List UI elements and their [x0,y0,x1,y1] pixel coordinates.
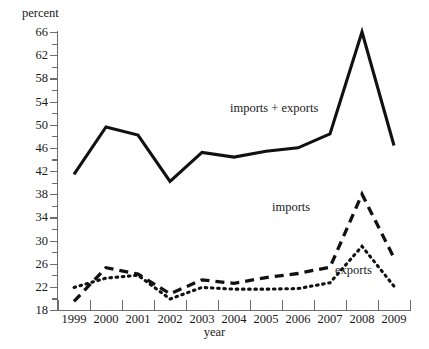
series-label-imports-plus-exports: imports + exports [230,101,318,116]
series-plot-area [0,0,429,349]
series-label-imports: imports [272,200,310,215]
series-line-imports [74,194,394,301]
line-chart: percent 18222630343842465054586266 19992… [0,0,429,349]
series-label-exports: exports [335,263,372,278]
x-axis-title: year [0,325,429,340]
